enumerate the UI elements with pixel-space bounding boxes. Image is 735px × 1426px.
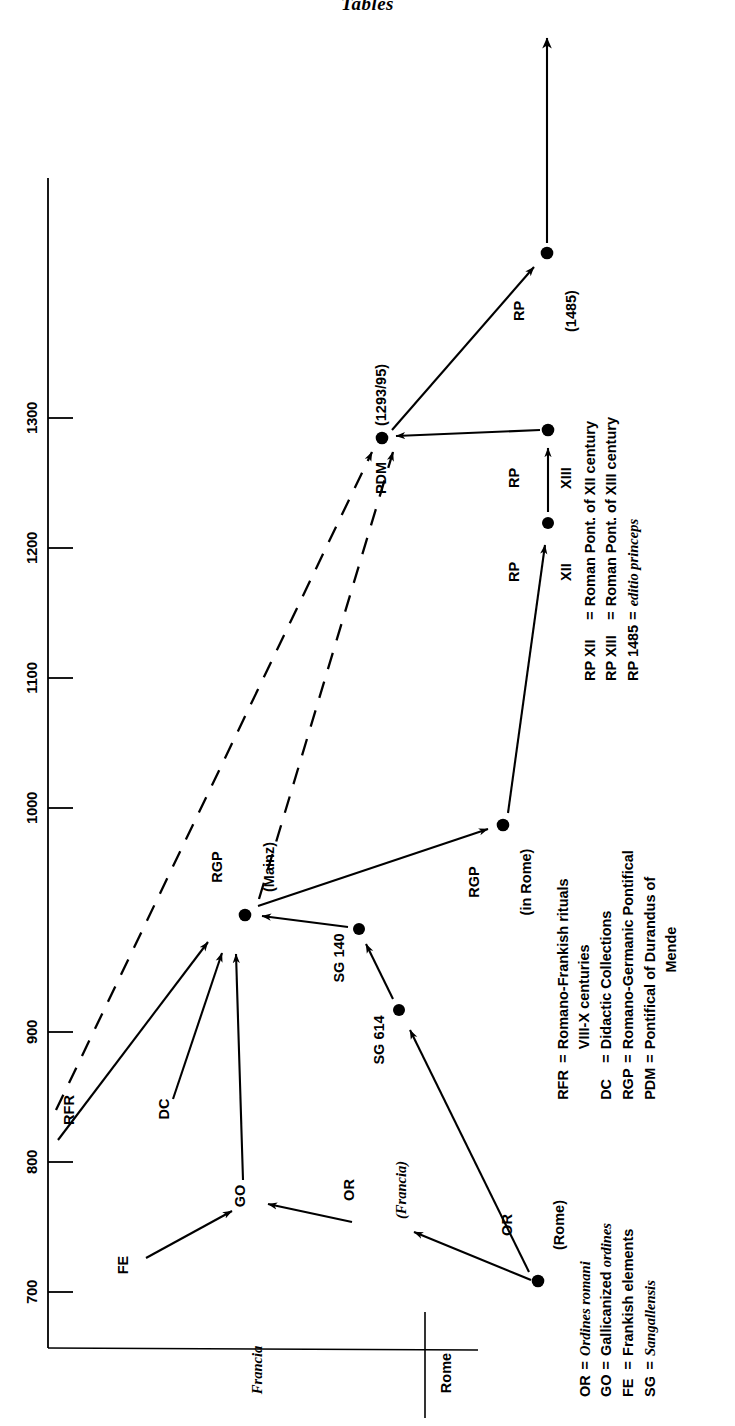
node-label-or-rome-main: OR: [499, 1200, 516, 1250]
place-axis-label-francia: Francia: [249, 1346, 266, 1394]
node-label-pdm-sub: (1293/95): [373, 364, 390, 426]
node-label-rgp-mainz-sub: (Mainz): [260, 842, 277, 892]
node-label-rp-xii-main: RP: [506, 562, 523, 582]
legend-upper-value-0: Roman Pont. of XII century: [579, 417, 601, 606]
legend-middle-key-3: PDM: [640, 1068, 662, 1100]
node-label-fe: FE: [115, 1256, 132, 1275]
node-label-rgp-mainz-main: RGP: [209, 842, 226, 892]
axis-tick-label-1100: 1100: [23, 662, 41, 693]
legend-lower-value-3: Sangallensis: [640, 1223, 662, 1356]
node-label-pdm: PDM: [373, 462, 390, 494]
legend-lower-eq-0: =: [575, 1361, 597, 1369]
legend-middle-value-1: Didactic Collections: [596, 850, 618, 1049]
node-label-go: GO: [232, 1185, 249, 1208]
edge-rfr-rgp-mainz: [58, 942, 208, 1140]
node-label-rp-1485-main: RP: [511, 290, 528, 332]
legend-upper-value-1: Roman Pont. of XIII century: [601, 417, 623, 606]
axis-tick-label-800: 800: [23, 1150, 41, 1174]
legend-middle-eq-3: =: [640, 1054, 662, 1062]
time-axis: [48, 178, 73, 1348]
legend-lower-eq-1: =: [596, 1361, 618, 1369]
axis-tick-label-900: 900: [23, 1020, 41, 1044]
legend-upper-eq-2: =: [623, 611, 645, 619]
dot-rp-1485: [541, 247, 554, 260]
edge-fe-go: [146, 1211, 232, 1258]
legend-lower-key-1: GO: [596, 1374, 618, 1397]
legend-middle-eq-0: =: [553, 1054, 575, 1062]
dot-sg-614: [393, 1004, 405, 1016]
place-axis-label-rome: Rome: [438, 1353, 455, 1393]
legend-upper: RP XII = Roman Pont. of XII century RP X…: [536, 417, 688, 681]
legend-middle-key-2: RGP: [618, 1068, 640, 1100]
node-label-rp-xiii-main: RP: [506, 467, 523, 489]
legend-middle-eq-2: =: [618, 1054, 640, 1062]
page-canvas: Tables: [0, 0, 735, 1426]
legend-middle-key-1: DC: [596, 1068, 618, 1100]
legend-lower-value-0: Ordines romani: [575, 1223, 597, 1356]
edge-rfr-pdm-dashed: [56, 452, 372, 1110]
node-label-or-francia-sub: (Francia): [392, 1161, 409, 1219]
legend-lower-key-3: SG: [640, 1374, 662, 1397]
legend-lower-eq-2: =: [618, 1361, 640, 1369]
axis-tick-label-1300: 1300: [23, 402, 41, 434]
node-label-rgp-in-rome-main: RGP: [466, 849, 483, 916]
node-label-sg-140: SG 140: [331, 933, 348, 982]
legend-middle-value-0: Romano-Frankish rituals: [553, 850, 575, 1049]
edge-rp-xiii-pdm: [396, 430, 540, 436]
edge-dc-rgp-mainz: [173, 953, 222, 1099]
legend-lower-eq-3: =: [640, 1361, 662, 1369]
axis-tick-label-1000: 1000: [23, 792, 41, 824]
node-label-rp-1485: RP (1485): [477, 290, 614, 332]
legend-upper-eq-0: =: [579, 611, 601, 619]
legend-middle: RFR = Romano-Frankish rituals VIII-X cen…: [509, 850, 727, 1100]
edge-go-rgp-mainz: [236, 954, 243, 1180]
legend-upper-key-1: RP XIII: [601, 625, 623, 681]
node-dots: [239, 247, 555, 1288]
node-label-or-francia: OR (Francia): [307, 1161, 444, 1219]
legend-middle-eq-1: =: [596, 1054, 618, 1062]
dot-sg-140: [353, 923, 365, 935]
edge-sg140-rgp-mainz: [262, 916, 348, 927]
legend-middle-value-0b: VIII-X centuries: [575, 850, 597, 1049]
legend-middle-value-3b: Mende: [662, 850, 684, 1049]
node-label-rp-1485-sub: (1485): [562, 290, 579, 332]
legend-middle-value-3: Pontifical of Durandus of: [640, 850, 662, 1049]
legend-lower-value-1-text: Gallicanized ordines: [598, 1223, 614, 1356]
dot-rgp-in-rome: [497, 819, 510, 832]
legend-lower-key-0: OR: [575, 1374, 597, 1397]
legend-upper-key-0: RP XII: [579, 625, 601, 681]
legend-lower-key-2: FE: [618, 1374, 640, 1397]
legend-lower-value-1: Gallicanized ordines: [596, 1223, 618, 1356]
axis-tick-label-700: 700: [23, 1280, 41, 1304]
legend-upper-value-2: editio princeps: [623, 417, 645, 606]
legend-upper-eq-1: =: [601, 611, 623, 619]
legend-upper-key-2: RP 1485: [623, 625, 645, 681]
legend-middle-value-2: Romano-Germanic Pontifical: [618, 850, 640, 1049]
node-label-rfr: RFR: [61, 1095, 78, 1125]
dot-pdm: [376, 432, 389, 445]
node-label-rgp-mainz: RGP (Mainz): [175, 842, 312, 892]
node-label-dc: DC: [156, 1099, 173, 1120]
dot-rgp-mainz: [239, 909, 252, 922]
axis-tick-label-1200: 1200: [23, 532, 41, 564]
legend-lower-value-2: Frankish elements: [618, 1223, 640, 1356]
legend-lower: OR = Ordines romani GO = Gallicanized or…: [531, 1223, 705, 1397]
legend-middle-key-0: RFR: [553, 1068, 575, 1100]
edge-sg614-sg140: [366, 944, 393, 999]
node-label-or-francia-main: OR: [341, 1161, 358, 1219]
node-label-sg-614: SG 614: [371, 1015, 388, 1064]
edge-rgp-mainz-pdm-dashed: [259, 452, 393, 899]
